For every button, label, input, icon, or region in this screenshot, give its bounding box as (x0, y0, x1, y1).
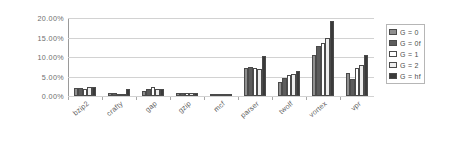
bar (330, 21, 335, 96)
x-label-cell: gzip (170, 97, 204, 142)
y-axis-tick-labels: 0.00%5.00%10.00%15.00%20.00% (16, 18, 64, 96)
bar (160, 89, 165, 96)
legend-swatch (389, 29, 397, 35)
x-tick-mark (340, 97, 341, 100)
legend-swatch (389, 51, 397, 57)
x-tick-mark (238, 97, 239, 100)
legend-swatch (389, 62, 397, 68)
y-tick-label: 10.00% (18, 53, 64, 62)
x-label-cell: bzip2 (68, 97, 102, 142)
x-label-cell: mcf (204, 97, 238, 142)
x-label-cell: crafty (102, 97, 136, 142)
x-label-cell: gap (136, 97, 170, 142)
x-tick-label: vpr (349, 99, 363, 113)
x-label-cell: parser (238, 97, 272, 142)
bar (364, 55, 369, 96)
legend-item[interactable]: G = 1 (389, 49, 421, 59)
x-tick-label: gap (143, 99, 158, 114)
x-tick-mark (170, 97, 171, 100)
legend-item[interactable]: G = hf (389, 71, 421, 81)
bar-group (306, 18, 340, 96)
legend-swatch (389, 40, 397, 46)
plot-area (68, 18, 374, 96)
bar (92, 87, 97, 96)
x-label-cell: vpr (340, 97, 374, 142)
x-label-cell: twolf (272, 97, 306, 142)
y-tick-label: 0.00% (18, 92, 64, 101)
bar-groups (68, 18, 374, 96)
legend-item[interactable]: G = 0f (389, 38, 421, 48)
legend-swatch (389, 73, 397, 79)
x-tick-label: parser (238, 99, 260, 120)
bar (126, 89, 131, 96)
bar-chart: 0.00%5.00%10.00%15.00%20.00% bzip2crafty… (0, 0, 459, 142)
y-tick-label: 5.00% (18, 72, 64, 81)
bar-group (102, 18, 136, 96)
legend-label: G = hf (400, 73, 421, 80)
bar-group (340, 18, 374, 96)
x-tick-mark (272, 97, 273, 100)
legend-label: G = 1 (400, 51, 419, 58)
bar-group (238, 18, 272, 96)
x-tick-label: mcf (212, 99, 227, 114)
bar-group (272, 18, 306, 96)
y-tick-label: 15.00% (18, 33, 64, 42)
bar (194, 93, 199, 97)
legend-label: G = 0f (400, 40, 421, 47)
x-tick-mark (102, 97, 103, 100)
x-tick-label: twolf (277, 99, 295, 116)
x-tick-label: vortex (307, 99, 329, 119)
x-tick-label: bzip2 (71, 99, 91, 118)
bar-group (68, 18, 102, 96)
x-axis-category-labels: bzip2craftygapgzipmcfparsertwolfvortexvp… (68, 97, 374, 142)
bar-group (136, 18, 170, 96)
bar (296, 71, 301, 96)
x-tick-mark (136, 97, 137, 100)
legend-label: G = 2 (400, 62, 419, 69)
x-tick-label: gzip (176, 99, 193, 115)
y-tick-label: 20.00% (18, 14, 64, 23)
x-tick-mark (204, 97, 205, 100)
bar (262, 56, 267, 96)
bar-group (204, 18, 238, 96)
x-tick-mark (68, 97, 69, 100)
bar (228, 94, 233, 96)
legend-label: G = 0 (400, 29, 419, 36)
legend-item[interactable]: G = 2 (389, 60, 421, 70)
x-tick-label: crafty (105, 99, 125, 118)
chart-legend: G = 0G = 0fG = 1G = 2G = hf (386, 24, 425, 84)
legend-item[interactable]: G = 0 (389, 27, 421, 37)
x-label-cell: vortex (306, 97, 340, 142)
x-tick-mark (306, 97, 307, 100)
bar-group (170, 18, 204, 96)
